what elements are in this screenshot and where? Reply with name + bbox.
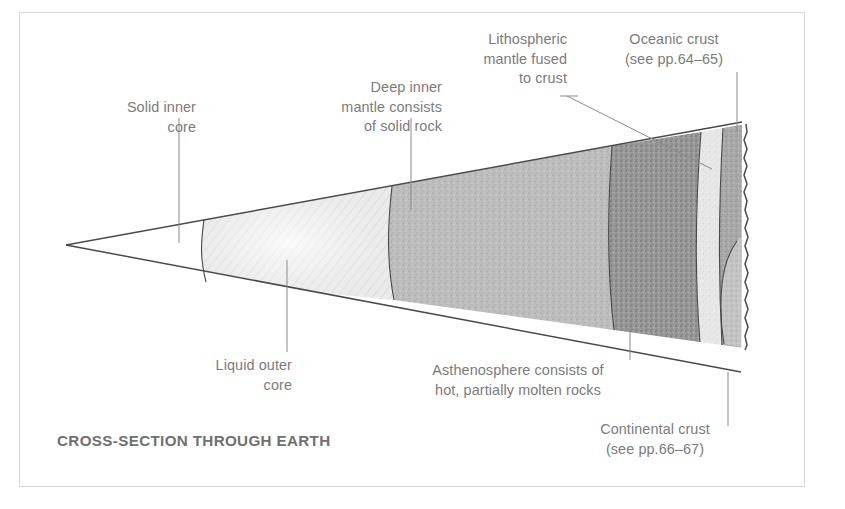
label-solid-inner-core: Solid inner core bbox=[36, 98, 196, 137]
label-continental-crust: Continental crust (see pp.66–67) bbox=[576, 420, 734, 459]
figure-plate: Solid inner core Liquid outer core Deep … bbox=[0, 0, 845, 509]
label-lithospheric-mantle: Lithospheric mantle fused to crust bbox=[422, 30, 567, 89]
layer-solid-inner-core bbox=[66, 220, 207, 282]
figure-title: CROSS-SECTION THROUGH EARTH bbox=[57, 432, 331, 449]
label-deep-inner-mantle: Deep inner mantle consists of solid rock bbox=[282, 78, 442, 137]
label-asthenosphere: Asthenosphere consists of hot, partially… bbox=[404, 361, 632, 400]
layer-asthenosphere bbox=[609, 132, 702, 342]
layer-deep-inner-mantle bbox=[389, 146, 615, 330]
label-liquid-outer-core: Liquid outer core bbox=[132, 356, 292, 395]
label-oceanic-crust: Oceanic crust (see pp.64–65) bbox=[600, 30, 748, 69]
